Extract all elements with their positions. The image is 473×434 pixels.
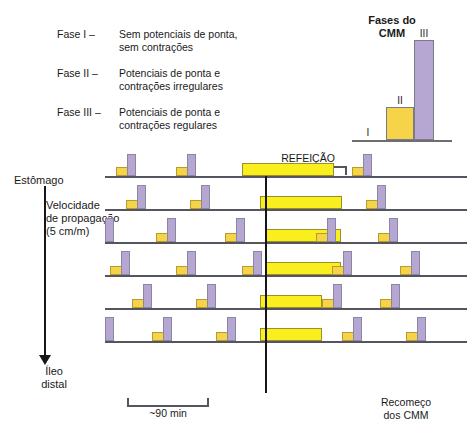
phase-iii-spike <box>391 284 400 308</box>
meal-activity-bar <box>260 196 342 209</box>
meal-activity-bar <box>260 328 322 341</box>
phase-row: Fase II – Potenciais de ponta e contraçõ… <box>57 67 327 93</box>
phase-description-line: Potenciais de ponta e <box>119 106 220 119</box>
restart-label-line: Recomeço <box>358 396 454 409</box>
trace-baseline <box>105 341 467 343</box>
phase-iii-spike <box>253 251 262 275</box>
phase-iii-spike <box>353 317 362 341</box>
trace-row <box>105 210 467 244</box>
cmm-legend-chart: III II I <box>352 30 452 142</box>
phase-iii-spike <box>167 218 176 242</box>
phase-iii-spike <box>187 251 196 275</box>
phase-iii-spike <box>227 317 236 341</box>
phase-iii-spike <box>377 185 386 209</box>
phase-description-line: contrações irregulares <box>119 80 223 93</box>
meal-activity-bar <box>265 262 341 275</box>
trace-row <box>105 243 467 277</box>
phase-row: Fase III – Potenciais de ponta e contraç… <box>57 106 327 132</box>
phase-iii-spike <box>389 218 398 242</box>
restart-label: Recomeço dos CMM <box>358 396 454 422</box>
phase-iii-spike <box>105 218 114 242</box>
trace-row <box>105 309 467 343</box>
phase-key: Fase II – <box>57 67 119 93</box>
phase-description: Potenciais de ponta e contrações regular… <box>119 106 220 132</box>
trace-row <box>105 177 467 211</box>
duration-bracket <box>127 398 209 407</box>
trace-row <box>105 276 467 310</box>
phase-iii-spike <box>343 251 352 275</box>
phase-iii-spike <box>187 154 196 176</box>
phase-row: Fase I – Sem potenciais de ponta, sem co… <box>57 28 327 54</box>
phase-iii-spike <box>163 317 172 341</box>
phase-description-line: Sem potenciais de ponta, <box>119 28 238 41</box>
phase-iii-spike <box>363 154 372 176</box>
phase-iii-spike <box>105 317 114 341</box>
meal-activity-bar <box>260 295 322 308</box>
meal-activity-bar <box>242 163 334 176</box>
phase-description-line: Potenciais de ponta e <box>119 67 223 80</box>
meal-time-line <box>265 176 267 393</box>
trace-row <box>105 144 467 178</box>
cmm-bar-label-i: I <box>358 127 378 138</box>
phase-iii-spike <box>327 218 336 242</box>
phase-iii-spike <box>417 317 426 341</box>
phase-description-line: contrações regulares <box>119 119 220 132</box>
phase-iii-spike <box>127 154 136 176</box>
cmm-bar-label-ii: II <box>386 95 414 106</box>
cmm-baseline <box>352 140 452 142</box>
cmm-bar-phase-iii <box>414 40 434 140</box>
cmm-bar-label-iii: III <box>414 28 434 39</box>
cmm-bar-phase-ii <box>386 107 414 140</box>
phase-description-line: sem contrações <box>119 41 238 54</box>
phase-legend-list: Fase I – Sem potenciais de ponta, sem co… <box>57 28 327 145</box>
restart-label-line: dos CMM <box>358 409 454 422</box>
phase-description: Potenciais de ponta e contrações irregul… <box>119 67 223 93</box>
phase-iii-spike <box>333 284 342 308</box>
cmm-legend-title-line: Fases do <box>352 14 432 27</box>
phase-iii-spike <box>236 218 245 242</box>
duration-label: ~90 min <box>118 407 218 419</box>
phase-iii-spike <box>143 284 152 308</box>
phase-iii-spike <box>411 251 420 275</box>
diagram-canvas: Fase I – Sem potenciais de ponta, sem co… <box>0 0 473 434</box>
phase-key: Fase III – <box>57 106 119 132</box>
recording-traces <box>0 150 473 400</box>
phase-description: Sem potenciais de ponta, sem contrações <box>119 28 238 54</box>
phase-iii-spike <box>121 251 130 275</box>
phase-iii-spike <box>207 284 216 308</box>
phase-iii-spike <box>201 185 210 209</box>
phase-key: Fase I – <box>57 28 119 54</box>
phase-iii-spike <box>137 185 146 209</box>
